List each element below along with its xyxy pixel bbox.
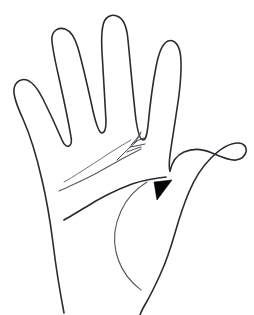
figure-background	[0, 0, 254, 315]
hand-drawing-figure: Black and white line drawing of an open …	[0, 0, 254, 315]
hand-illustration	[0, 0, 254, 315]
